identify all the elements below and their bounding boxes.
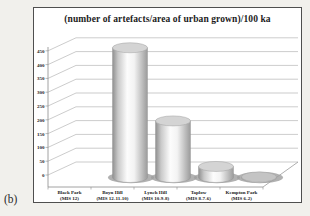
x-label-boyn-hill: Boyn Hill(MIS 12-11-10) [96,190,128,202]
figure-panel-label: (b) [4,193,17,205]
gridline-250 [48,93,298,106]
cylinder-body-lynch-hill [156,121,191,183]
y-tick-label-0: 0 [42,173,45,178]
cylinder-top-kempton-park [242,172,277,182]
chart-frame: (number of artefacts/area of urban grown… [33,7,302,203]
gridline-350 [48,65,298,78]
y-tick-label-450: 450 [37,49,45,54]
x-label-taplow: Taplow(MIS 8-7-6) [186,190,211,202]
gridline-450 [48,38,298,51]
y-tick-label-200: 200 [37,118,45,123]
gridline-400 [48,52,298,65]
figure-panel: (number of artefacts/area of urban grown… [0,0,310,216]
cylinder-body-boyn-hill [113,48,148,183]
cylinder-top-boyn-hill [113,43,148,53]
x-label-kempton-park: Kempton Park(MIS 6-2) [226,190,258,202]
cylinder-top-lynch-hill [156,116,191,126]
y-tick-label-50: 50 [40,159,46,164]
y-tick-label-250: 250 [37,104,45,109]
y-tick-label-350: 350 [37,76,45,81]
gridline-300 [48,79,298,92]
cylinder-top-taplow [199,161,234,171]
x-label-black-park: Black Park(MIS 12) [57,190,81,202]
y-tick-label-150: 150 [37,132,45,137]
y-tick-label-300: 300 [37,90,45,95]
plot-area: 050100150200250300350400450Black Park(MI… [34,8,303,204]
y-tick-label-100: 100 [37,145,45,150]
y-tick-label-400: 400 [37,63,45,68]
x-label-lynch-hill: Lynch Hill(MIS 10-9-8) [142,190,170,202]
